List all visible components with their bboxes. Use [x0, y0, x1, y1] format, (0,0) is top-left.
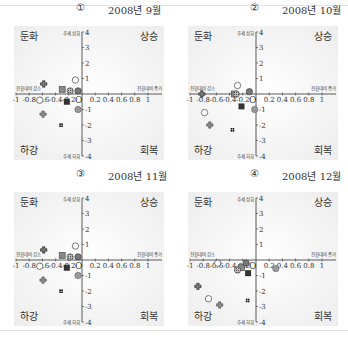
svg-text:추세 상회: 추세 상회: [237, 30, 254, 37]
svg-text:0.2: 0.2: [90, 96, 101, 104]
svg-text:0.2: 0.2: [90, 262, 101, 270]
svg-text:1: 1: [85, 75, 89, 83]
scatter-plot: -1-0.8-0.6-0.4-0.20.20.40.60.814321-1-2-…: [0, 0, 172, 165]
svg-text:-4: -4: [85, 153, 92, 161]
chart-panel-2: ② 2008년 10월 -1-0.8-0.6-0.4-0.20.20.40.60…: [174, 0, 346, 165]
svg-text:4: 4: [85, 195, 90, 203]
svg-text:0.6: 0.6: [290, 96, 302, 104]
svg-text:-2: -2: [259, 288, 266, 296]
svg-text:2: 2: [85, 60, 89, 68]
svg-text:-0.8: -0.8: [22, 262, 36, 270]
svg-text:-3: -3: [259, 137, 266, 145]
svg-text:1: 1: [146, 262, 150, 270]
svg-text:0.4: 0.4: [103, 262, 115, 270]
data-point-s4: [59, 252, 65, 258]
svg-text:전월대비 감소: 전월대비 감소: [16, 85, 41, 92]
svg-text:-1: -1: [187, 96, 194, 104]
data-point-s9: [75, 272, 81, 278]
svg-text:회복: 회복: [140, 311, 158, 322]
data-point-s7: [245, 270, 251, 276]
svg-text:3: 3: [259, 210, 263, 218]
svg-text:상승: 상승: [314, 31, 332, 42]
svg-text:1: 1: [146, 96, 150, 104]
data-point-s3: [37, 263, 43, 269]
svg-text:하강: 하강: [194, 144, 212, 156]
svg-text:추세 상회: 추세 상회: [237, 196, 254, 203]
data-point-s6: [75, 88, 81, 94]
svg-text:하강: 하강: [20, 144, 38, 156]
svg-text:-3: -3: [85, 303, 92, 311]
svg-text:-4: -4: [259, 153, 266, 161]
svg-text:-0.4: -0.4: [49, 96, 63, 104]
svg-text:3: 3: [259, 44, 263, 52]
svg-text:-4: -4: [259, 319, 266, 327]
scatter-plot: -1-0.8-0.6-0.4-0.20.20.40.60.814321-1-2-…: [174, 166, 346, 331]
svg-text:-1: -1: [13, 262, 20, 270]
svg-text:전월대비 감소: 전월대비 감소: [190, 251, 215, 258]
svg-text:4: 4: [259, 195, 264, 203]
svg-text:3: 3: [85, 44, 89, 52]
data-point-s6: [243, 260, 249, 266]
svg-text:0.4: 0.4: [103, 96, 115, 104]
svg-text:-0.2: -0.2: [236, 96, 250, 104]
data-point-s5: [67, 254, 73, 260]
svg-text:회복: 회복: [314, 311, 332, 322]
svg-text:O: O: [249, 95, 256, 105]
data-point-s7: [238, 103, 244, 109]
svg-text:전월대비 증가: 전월대비 증가: [311, 85, 336, 92]
scatter-plot: -1-0.8-0.6-0.4-0.20.20.40.60.814321-1-2-…: [174, 0, 346, 165]
svg-text:-2: -2: [85, 288, 92, 296]
svg-text:상승: 상승: [140, 197, 158, 208]
data-point-s9: [251, 106, 257, 112]
svg-text:추세 하회: 추세 하회: [63, 319, 80, 326]
svg-text:0.8: 0.8: [303, 96, 314, 104]
data-point-s9: [75, 106, 81, 112]
data-point-s7: [64, 99, 70, 105]
svg-text:-0.8: -0.8: [196, 262, 210, 270]
svg-text:O: O: [249, 261, 256, 271]
svg-text:하강: 하강: [20, 310, 38, 322]
data-point-s6: [75, 254, 81, 260]
svg-text:-0.6: -0.6: [210, 96, 224, 104]
svg-text:2: 2: [85, 226, 89, 234]
svg-text:2: 2: [259, 226, 263, 234]
svg-text:-2: -2: [259, 122, 266, 130]
svg-text:0.6: 0.6: [290, 262, 302, 270]
svg-text:추세 하회: 추세 하회: [237, 153, 254, 160]
data-point-s5: [233, 91, 239, 97]
chart-panel-4: ④ 2008년 12월 -1-0.8-0.6-0.4-0.20.20.40.60…: [174, 166, 346, 331]
data-point-s8: [72, 243, 78, 249]
svg-text:전월대비 증가: 전월대비 증가: [137, 251, 162, 258]
svg-text:1: 1: [320, 96, 324, 104]
svg-text:-1: -1: [259, 106, 266, 114]
data-point-s3: [201, 109, 207, 115]
svg-text:1: 1: [259, 241, 263, 249]
svg-text:0.6: 0.6: [116, 96, 128, 104]
svg-text:-1: -1: [85, 106, 92, 114]
data-point-s8: [72, 77, 78, 83]
data-point-s8: [234, 82, 240, 88]
svg-text:전월대비 감소: 전월대비 감소: [16, 251, 41, 258]
svg-text:둔화: 둔화: [20, 31, 38, 42]
svg-text:상승: 상승: [314, 197, 332, 208]
svg-text:1: 1: [259, 75, 263, 83]
svg-text:O: O: [75, 95, 82, 105]
svg-text:4: 4: [85, 29, 90, 37]
data-point-s3: [205, 296, 211, 302]
svg-text:1: 1: [320, 262, 324, 270]
svg-text:상승: 상승: [140, 31, 158, 42]
data-point-s7: [64, 265, 70, 271]
svg-text:O: O: [75, 261, 82, 271]
svg-text:4: 4: [259, 29, 264, 37]
svg-text:1: 1: [85, 241, 89, 249]
svg-text:-1: -1: [187, 262, 194, 270]
svg-text:0.2: 0.2: [264, 96, 275, 104]
svg-text:둔화: 둔화: [20, 197, 38, 208]
svg-text:둔화: 둔화: [194, 197, 212, 208]
scatter-plot: -1-0.8-0.6-0.4-0.20.20.40.60.814321-1-2-…: [0, 166, 172, 331]
svg-text:-3: -3: [85, 137, 92, 145]
data-point-s9: [273, 265, 279, 271]
svg-text:2: 2: [259, 60, 263, 68]
svg-text:추세 하회: 추세 하회: [237, 319, 254, 326]
svg-text:0.8: 0.8: [129, 262, 140, 270]
